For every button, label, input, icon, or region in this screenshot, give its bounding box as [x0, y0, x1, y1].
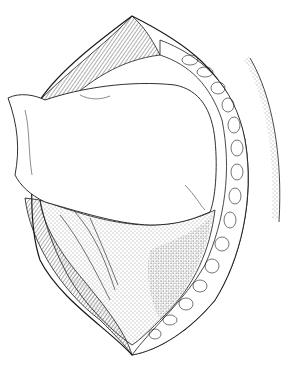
skin-edge-right [244, 55, 279, 220]
surgical-illustration [0, 0, 292, 369]
illustration-canvas [0, 0, 292, 369]
